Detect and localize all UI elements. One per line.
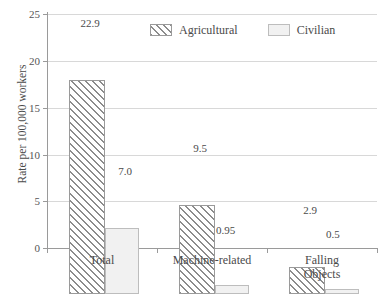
ytick-label-10: 10 [2, 150, 40, 161]
category-label-total: Total [47, 253, 157, 267]
ytick-label-0: 0 [2, 243, 40, 254]
value-label-civilian-machine-related: 0.95 [216, 225, 260, 236]
category-label-total-line-1: Total [47, 253, 157, 267]
bar-civilian-machine-related[interactable] [215, 285, 249, 294]
value-label-agricultural-total: 22.9 [57, 18, 123, 29]
legend-item-agricultural[interactable]: Agricultural [150, 24, 238, 36]
category-label-falling-objects: Falling Objects [267, 253, 377, 281]
category-label-falling-objects-line-2: Objects [267, 267, 377, 281]
chart-legend: Agricultural Civilian [150, 24, 335, 36]
legend-label-civilian: Civilian [297, 24, 336, 36]
ytick-label-15: 15 [2, 103, 40, 114]
bar-agricultural-machine-related[interactable] [179, 205, 215, 294]
solid-swatch-icon [268, 24, 290, 36]
hatch-swatch-icon [150, 24, 172, 36]
legend-label-agricultural: Agricultural [179, 24, 238, 36]
bar-civilian-falling-objects[interactable] [325, 289, 359, 294]
ytick-label-5: 5 [2, 196, 40, 207]
ytick-label-25: 25 [2, 9, 40, 20]
value-label-civilian-total: 7.0 [92, 166, 158, 177]
xtick-end [377, 248, 378, 253]
value-label-civilian-falling-objects: 0.5 [326, 229, 370, 240]
category-label-machine-related-line-1: Machine-related [152, 253, 272, 267]
ytick-label-20: 20 [2, 56, 40, 67]
value-label-agricultural-machine-related: 9.5 [167, 143, 233, 154]
bar-chart: Rate per 100,000 workers 25 20 15 10 5 0… [0, 0, 381, 294]
category-label-machine-related: Machine-related [152, 253, 272, 267]
category-label-falling-objects-line-1: Falling [267, 253, 377, 267]
gridline-25 [47, 14, 377, 15]
legend-item-civilian[interactable]: Civilian [268, 24, 336, 36]
value-label-agricultural-falling-objects: 2.9 [277, 205, 343, 216]
